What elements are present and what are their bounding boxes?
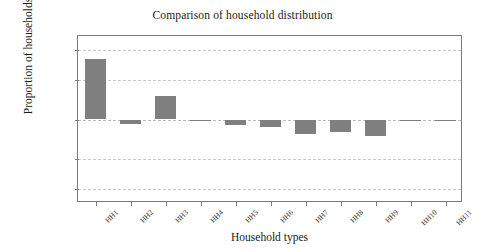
y-tick-mark <box>75 189 79 190</box>
x-tick-label-hh7: HH7 <box>313 208 330 225</box>
bar-hh5 <box>225 120 246 126</box>
bar-hh2 <box>120 120 141 124</box>
x-tick-mark <box>201 202 202 206</box>
bar-hh8 <box>330 120 351 133</box>
x-tick-mark <box>341 202 342 206</box>
x-tick-mark <box>411 202 412 206</box>
bar-hh3 <box>155 96 176 120</box>
x-axis-label: Household types <box>77 231 462 243</box>
x-tick-label-hh6: HH6 <box>278 208 295 225</box>
bar-hh6 <box>260 120 281 128</box>
x-tick-mark <box>446 202 447 206</box>
x-tick-mark <box>166 202 167 206</box>
bar-hh10 <box>400 120 421 121</box>
gridline <box>78 159 461 160</box>
gridline <box>78 50 461 51</box>
y-tick-mark <box>75 120 79 121</box>
gridline <box>78 189 461 190</box>
x-tick-label-hh3: HH3 <box>173 208 190 225</box>
plot-area: 0.00350.0020-0.002-0.0035 HH1HH2HH3HH4HH… <box>77 35 462 202</box>
y-axis-label: Proportion of households <box>22 0 34 136</box>
x-tick-label-hh10: HH10 <box>419 208 438 227</box>
x-tick-mark <box>96 202 97 206</box>
x-tick-mark <box>131 202 132 206</box>
chart-title: Comparison of household distribution <box>0 9 485 21</box>
x-tick-label-hh4: HH4 <box>208 208 225 225</box>
x-tick-label-hh1: HH1 <box>103 208 120 225</box>
x-tick-label-hh9: HH9 <box>383 208 400 225</box>
x-tick-mark <box>271 202 272 206</box>
x-tick-label-hh2: HH2 <box>138 208 155 225</box>
x-tick-label-hh11: HH11 <box>454 208 473 227</box>
gridline <box>78 80 461 81</box>
x-tick-mark <box>306 202 307 206</box>
bar-hh7 <box>295 120 316 134</box>
y-tick-mark <box>75 50 79 51</box>
bar-hh11 <box>435 120 456 121</box>
bar-hh9 <box>365 120 386 136</box>
y-tick-mark <box>75 159 79 160</box>
y-tick-mark <box>75 80 79 81</box>
x-tick-mark <box>236 202 237 206</box>
chart-figure: Comparison of household distribution Pro… <box>0 0 485 252</box>
x-tick-mark <box>376 202 377 206</box>
bar-hh1 <box>85 59 106 120</box>
bar-hh4 <box>190 120 211 122</box>
x-tick-label-hh5: HH5 <box>243 208 260 225</box>
x-tick-label-hh8: HH8 <box>348 208 365 225</box>
